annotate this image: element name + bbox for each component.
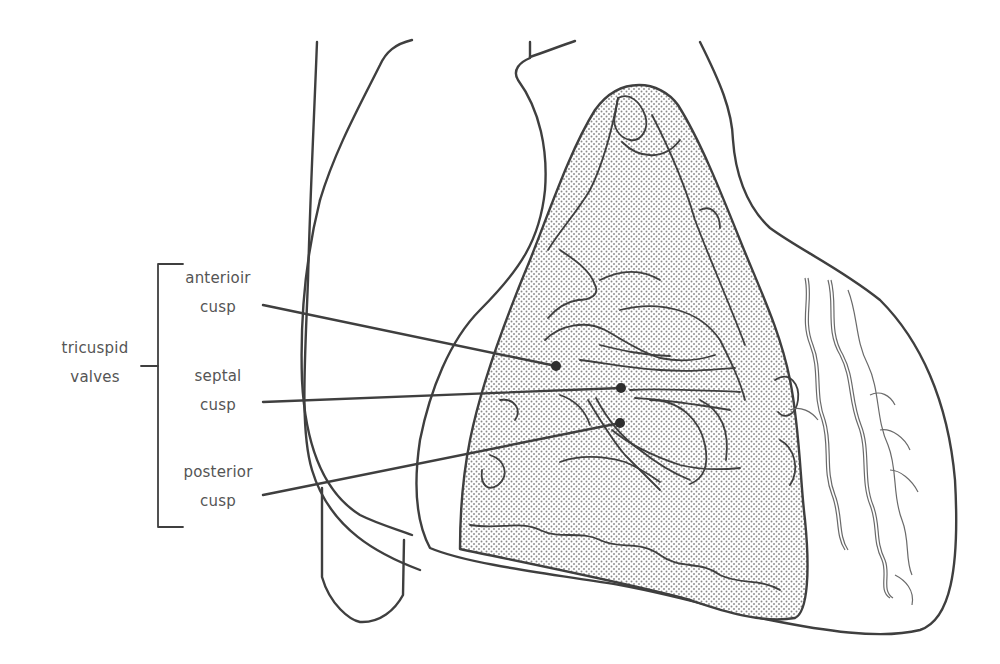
anterior-cusp-line1: anterioir — [168, 264, 268, 293]
anterior-cusp-marker — [551, 361, 561, 371]
posterior-cusp-line1: posterior — [168, 458, 268, 487]
septal-cusp-line2: cusp — [168, 391, 268, 420]
group-label-line2: valves — [40, 363, 150, 392]
right-ventricle-cutaway — [460, 85, 808, 619]
posterior-cusp-label: posterior cusp — [168, 458, 268, 516]
septal-cusp-label: septal cusp — [168, 362, 268, 420]
coronary-vessels — [790, 278, 918, 605]
posterior-cusp-marker — [615, 418, 625, 428]
heart-illustration — [0, 0, 1000, 664]
tricuspid-valves-label: tricuspid valves — [40, 334, 150, 392]
septal-cusp-line1: septal — [168, 362, 268, 391]
vena-cava-outline — [304, 40, 420, 622]
anterior-cusp-line2: cusp — [168, 293, 268, 322]
posterior-cusp-line2: cusp — [168, 487, 268, 516]
anterior-cusp-label: anterioir cusp — [168, 264, 268, 322]
septal-cusp-marker — [616, 383, 626, 393]
heart-diagram: tricuspid valves anterioir cusp septal c… — [0, 0, 1000, 664]
group-label-line1: tricuspid — [40, 334, 150, 363]
